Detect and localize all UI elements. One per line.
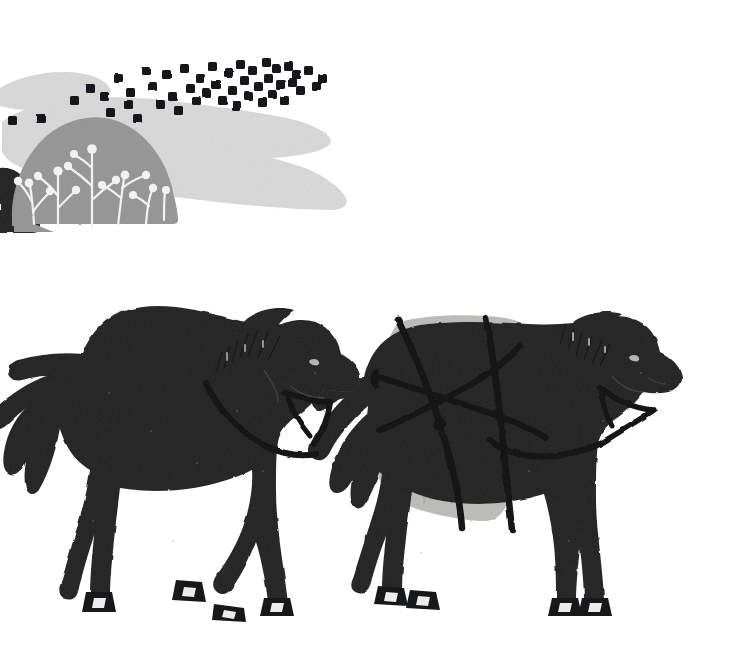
hoof (578, 598, 612, 616)
hoof (548, 598, 582, 616)
hoof (260, 598, 294, 616)
hoof (406, 590, 440, 610)
hoof (172, 580, 206, 602)
illustration-artwork (0, 0, 733, 665)
hoof (374, 586, 408, 606)
hoof (82, 592, 116, 612)
illustration-canvas: Two pack ponies in a snowy landscape (0, 0, 733, 665)
